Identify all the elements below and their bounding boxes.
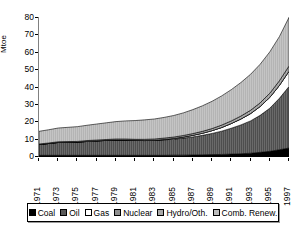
y-axis-ticks: 80706050403020100 [10, 0, 34, 230]
legend-item-hydro-oth[interactable]: Hydro/Oth. [157, 208, 207, 218]
x-tick-mark [115, 158, 116, 161]
legend-label: Nuclear [123, 208, 152, 218]
legend-item-nuclear[interactable]: Nuclear [114, 208, 152, 218]
solid-black-swatch [29, 209, 36, 216]
y-tick-label: 80 [25, 13, 34, 21]
x-tick-mark [173, 158, 174, 161]
y-tick-label: 50 [25, 65, 34, 73]
legend-item-comb-renew[interactable]: Comb. Renew. [213, 208, 278, 218]
pale-gray-swatch [213, 209, 220, 216]
legend-item-oil[interactable]: Oil [60, 208, 79, 218]
chart-legend: CoalOilGasNuclearHydro/Oth.Comb. Renew. [27, 203, 279, 222]
y-axis-label: Mtoe [0, 14, 8, 74]
mid-gray-swatch [114, 209, 121, 216]
plot-area [38, 17, 289, 157]
y-tick-label: 40 [25, 83, 34, 91]
x-axis-ticks: 1971197319751977197919811983198519871989… [38, 158, 290, 206]
legend-label: Coal [38, 208, 55, 218]
legend-item-gas[interactable]: Gas [85, 208, 110, 218]
legend-label: Hydro/Oth. [166, 208, 207, 218]
y-tick-label: 60 [25, 48, 34, 56]
y-tick-label: 0 [29, 152, 34, 160]
x-tick-mark [211, 158, 212, 161]
white-swatch [85, 209, 92, 216]
stacked-area-chart: Mtoe 80706050403020100 [0, 0, 306, 230]
x-tick-label: 1997 [282, 187, 292, 206]
light-gray-swatch [157, 209, 164, 216]
x-tick-mark [230, 158, 231, 161]
legend-item-coal[interactable]: Coal [29, 208, 55, 218]
x-tick-mark [76, 158, 77, 161]
y-tick-label: 30 [25, 100, 34, 108]
x-tick-mark [134, 158, 135, 161]
x-tick-mark [153, 158, 154, 161]
x-tick-mark [57, 158, 58, 161]
legend-label: Comb. Renew. [222, 208, 278, 218]
x-tick-mark [38, 158, 39, 161]
x-tick-mark [288, 158, 289, 161]
y-tick-label: 20 [25, 117, 34, 125]
x-tick-mark [96, 158, 97, 161]
dark-gray-hatch-swatch [60, 209, 67, 216]
legend-label: Oil [69, 208, 79, 218]
x-tick-mark [250, 158, 251, 161]
x-tick-mark [269, 158, 270, 161]
area-series-group [39, 17, 289, 156]
y-tick-label: 10 [25, 135, 34, 143]
legend-label: Gas [94, 208, 110, 218]
x-tick-mark [192, 158, 193, 161]
y-tick-label: 70 [25, 30, 34, 38]
